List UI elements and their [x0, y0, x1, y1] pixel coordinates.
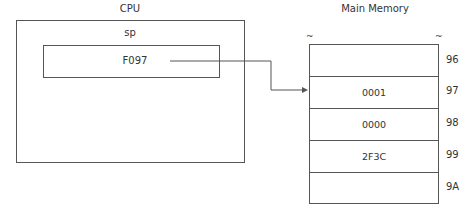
arrowhead-icon [302, 87, 308, 93]
pointer-arrow [0, 0, 469, 211]
